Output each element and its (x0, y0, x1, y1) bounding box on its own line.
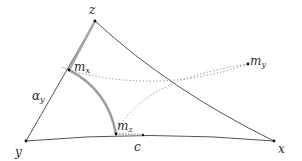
label-alpha-sub: y (40, 95, 45, 104)
label-mx: mx (74, 61, 90, 75)
point-my (247, 63, 250, 66)
label-alpha-y: αy (32, 90, 45, 104)
label-alpha-base: α (32, 89, 40, 103)
label-mz-base: m (117, 119, 128, 133)
point-y (25, 140, 28, 143)
point-c (142, 134, 144, 136)
label-z: z (89, 4, 95, 16)
label-mz: mz (117, 120, 133, 134)
label-mx-sub: x (85, 66, 90, 75)
diagram-canvas (0, 0, 302, 161)
label-my: my (250, 55, 266, 69)
dotted-my-mz (116, 64, 248, 134)
triangle-diagram: z y x c mx my mz αy (0, 0, 302, 161)
highlight-mx-mz (69, 70, 116, 134)
label-my-base: m (250, 54, 261, 68)
label-c: c (134, 141, 141, 153)
label-x: x (278, 143, 285, 155)
highlight-mz-c (116, 134, 143, 135)
label-mz-sub: z (128, 125, 132, 134)
curve-mx-mz (69, 70, 116, 134)
edge-yx (26, 136, 274, 142)
label-y: y (15, 146, 22, 158)
point-z (94, 20, 97, 23)
label-mx-base: m (74, 60, 85, 74)
label-my-sub: y (261, 60, 266, 69)
point-x (273, 140, 276, 143)
point-mx (68, 69, 71, 72)
